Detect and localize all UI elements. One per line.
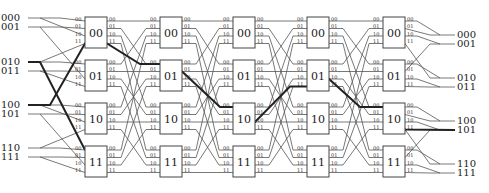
port-label-out: 00 bbox=[184, 16, 190, 22]
switch-label: 01 bbox=[89, 70, 103, 83]
port-label-out: 00 bbox=[109, 16, 115, 22]
port-label-out: 11 bbox=[184, 38, 190, 44]
output-label: 001 bbox=[457, 38, 476, 49]
port-label-out: 11 bbox=[184, 81, 190, 87]
port-label-out: 01 bbox=[184, 23, 190, 29]
port-label-in: 01 bbox=[297, 66, 303, 72]
port-label-in: 11 bbox=[297, 167, 303, 173]
port-label-out: 10 bbox=[184, 117, 190, 123]
port-label-in: 00 bbox=[297, 102, 303, 108]
port-label-out: 01 bbox=[331, 23, 337, 29]
port-label-in: 01 bbox=[373, 109, 379, 115]
port-label-out: 11 bbox=[257, 81, 263, 87]
port-label-in: 10 bbox=[373, 74, 379, 80]
wire bbox=[417, 165, 440, 173]
port-label-out: 11 bbox=[407, 38, 413, 44]
port-label-in: 01 bbox=[75, 109, 81, 115]
switch-label: 00 bbox=[387, 27, 401, 40]
port-label-in: 11 bbox=[223, 38, 229, 44]
port-label-out: 01 bbox=[184, 109, 190, 115]
port-label-in: 11 bbox=[223, 124, 229, 130]
port-label-in: 00 bbox=[297, 16, 303, 22]
port-label-in: 10 bbox=[75, 31, 81, 37]
switch-label: 11 bbox=[387, 156, 401, 169]
switch-label: 00 bbox=[164, 27, 178, 40]
port-label-out: 00 bbox=[184, 102, 190, 108]
wire bbox=[417, 36, 440, 44]
switch-label: 01 bbox=[387, 70, 401, 83]
port-label-out: 11 bbox=[109, 167, 115, 173]
port-label-in: 00 bbox=[75, 145, 81, 151]
port-label-out: 00 bbox=[257, 59, 263, 65]
port-label-in: 10 bbox=[297, 74, 303, 80]
port-label-out: 01 bbox=[257, 109, 263, 115]
port-label-in: 00 bbox=[150, 16, 156, 22]
port-label-out: 00 bbox=[407, 145, 413, 151]
port-label-in: 01 bbox=[223, 66, 229, 72]
port-label-in: 01 bbox=[75, 23, 81, 29]
switch-label: 11 bbox=[164, 156, 178, 169]
port-label-out: 01 bbox=[407, 23, 413, 29]
port-label-in: 01 bbox=[373, 66, 379, 72]
output-label: 101 bbox=[457, 124, 476, 135]
switch-label: 00 bbox=[237, 27, 251, 40]
input-label: 001 bbox=[1, 21, 20, 32]
port-label-out: 00 bbox=[184, 145, 190, 151]
port-label-in: 00 bbox=[373, 16, 379, 22]
port-label-in: 11 bbox=[297, 81, 303, 87]
port-label-in: 10 bbox=[373, 117, 379, 123]
port-label-out: 01 bbox=[184, 152, 190, 158]
port-label-in: 11 bbox=[75, 124, 81, 130]
port-label-out: 10 bbox=[331, 160, 337, 166]
port-label-out: 10 bbox=[257, 160, 263, 166]
switch-label: 01 bbox=[237, 70, 251, 83]
port-label-in: 00 bbox=[373, 145, 379, 151]
port-label-in: 11 bbox=[75, 38, 81, 44]
port-label-in: 00 bbox=[75, 102, 81, 108]
port-label-out: 01 bbox=[109, 152, 115, 158]
switch-label: 11 bbox=[89, 156, 103, 169]
port-label-in: 00 bbox=[150, 59, 156, 65]
port-label-out: 10 bbox=[257, 31, 263, 37]
port-label-in: 00 bbox=[75, 16, 81, 22]
port-label-out: 01 bbox=[184, 66, 190, 72]
port-label-in: 01 bbox=[223, 23, 229, 29]
port-label-in: 00 bbox=[223, 145, 229, 151]
port-label-out: 00 bbox=[257, 16, 263, 22]
port-label-out: 11 bbox=[407, 124, 413, 130]
port-label-in: 01 bbox=[373, 152, 379, 158]
port-label-out: 10 bbox=[331, 117, 337, 123]
port-label-out: 00 bbox=[407, 59, 413, 65]
port-label-in: 11 bbox=[223, 81, 229, 87]
port-label-in: 00 bbox=[150, 102, 156, 108]
port-label-in: 01 bbox=[373, 23, 379, 29]
port-label-in: 01 bbox=[150, 66, 156, 72]
port-label-out: 11 bbox=[109, 38, 115, 44]
port-label-in: 10 bbox=[223, 31, 229, 37]
output-label: 011 bbox=[457, 81, 476, 92]
port-label-in: 10 bbox=[297, 31, 303, 37]
port-label-in: 00 bbox=[75, 59, 81, 65]
port-label-in: 00 bbox=[223, 102, 229, 108]
port-label-in: 10 bbox=[150, 160, 156, 166]
port-label-out: 01 bbox=[331, 66, 337, 72]
port-label-in: 11 bbox=[150, 167, 156, 173]
switch-label: 11 bbox=[237, 156, 251, 169]
port-label-in: 01 bbox=[297, 109, 303, 115]
port-label-out: 01 bbox=[407, 109, 413, 115]
port-label-in: 01 bbox=[150, 109, 156, 115]
port-label-in: 10 bbox=[297, 160, 303, 166]
port-label-out: 01 bbox=[257, 152, 263, 158]
port-label-in: 01 bbox=[297, 152, 303, 158]
port-label-out: 11 bbox=[109, 81, 115, 87]
port-label-in: 01 bbox=[75, 152, 81, 158]
port-label-in: 10 bbox=[223, 160, 229, 166]
port-label-out: 11 bbox=[331, 167, 337, 173]
port-label-out: 10 bbox=[257, 117, 263, 123]
port-label-in: 11 bbox=[150, 81, 156, 87]
port-label-in: 01 bbox=[150, 152, 156, 158]
port-label-out: 10 bbox=[257, 74, 263, 80]
port-label-out: 11 bbox=[331, 38, 337, 44]
port-label-out: 10 bbox=[331, 74, 337, 80]
port-label-in: 10 bbox=[75, 160, 81, 166]
